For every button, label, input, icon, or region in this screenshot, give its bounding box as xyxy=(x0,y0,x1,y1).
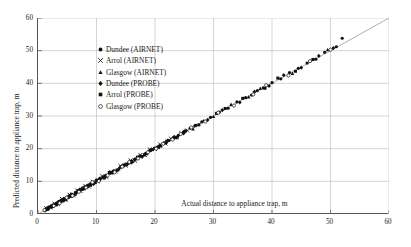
x-axis-title: Actual distance to appliance trap, m xyxy=(181,199,287,208)
x-tick-label: 20 xyxy=(142,218,166,226)
triangle-icon xyxy=(95,67,106,78)
x-tick-label: 10 xyxy=(84,218,108,226)
legend-item-0: Dundee (AIRNET) xyxy=(95,44,166,55)
legend-item-5: Glasgow (PROBE) xyxy=(95,100,166,111)
y-tick-label: 60 xyxy=(11,14,33,22)
legend-label: Glasgow (PROBE) xyxy=(106,102,163,111)
y-tick-label: 50 xyxy=(11,46,33,54)
x-tick-label: 60 xyxy=(376,218,400,226)
legend-item-4: Arrol (PROBE) xyxy=(95,89,166,100)
plot-area: Actual distance to appliance trap, m Dun… xyxy=(37,18,388,214)
filled-square-icon xyxy=(95,89,106,100)
plot-canvas xyxy=(38,18,389,214)
x-tick-label: 50 xyxy=(318,218,342,226)
legend-label: Dundee (PROBE) xyxy=(106,79,160,88)
diamond-icon xyxy=(95,78,106,89)
chart-legend: Dundee (AIRNET)Arrol (AIRNET)Glasgow (AI… xyxy=(95,44,166,112)
filled-circle-icon xyxy=(95,44,106,55)
legend-label: Arrol (PROBE) xyxy=(106,90,153,99)
y-tick-label: 40 xyxy=(11,79,33,87)
legend-item-1: Arrol (AIRNET) xyxy=(95,55,166,66)
legend-label: Arrol (AIRNET) xyxy=(106,56,156,65)
legend-label: Glasgow (AIRNET) xyxy=(106,68,166,77)
y-tick-label: 10 xyxy=(11,177,33,185)
y-tick-label: 20 xyxy=(11,144,33,152)
y-tick-label: 30 xyxy=(11,112,33,120)
open-circle-icon xyxy=(95,101,106,112)
scatter-chart-figure: Predicted distance to appliance trap, m … xyxy=(0,0,411,247)
cross-icon xyxy=(95,55,106,66)
legend-item-3: Dundee (PROBE) xyxy=(95,78,166,89)
y-tick-label: 0 xyxy=(11,210,33,218)
legend-label: Dundee (AIRNET) xyxy=(106,45,163,54)
x-tick-label: 30 xyxy=(201,218,225,226)
x-tick-label: 0 xyxy=(25,218,49,226)
x-tick-label: 40 xyxy=(259,218,283,226)
legend-item-2: Glasgow (AIRNET) xyxy=(95,67,166,78)
